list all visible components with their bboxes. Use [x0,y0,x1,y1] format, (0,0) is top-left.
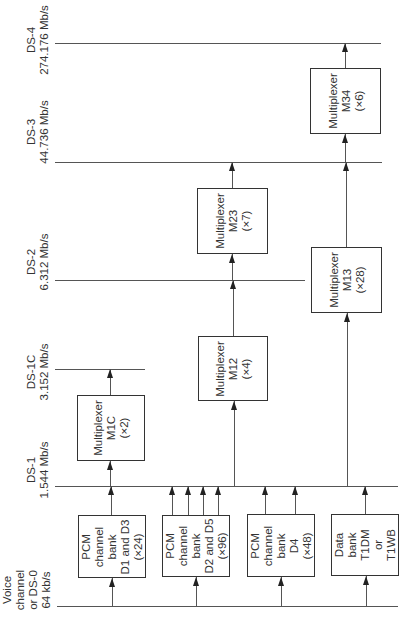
ds4-line [55,43,381,44]
arrow-up-icon [363,576,369,585]
data-bank-t1dm-t1wb: Data bank T1DM or T1WB [331,514,399,576]
arrow-up-icon [344,313,350,322]
arrow-up-icon [262,486,268,495]
ds1-line [55,486,398,487]
arrow-up-icon [342,43,348,52]
multiplexer-m23: Multiplexer M23 (×7) [197,188,268,254]
multiplexer-m1c: Multiplexer M1C (×2) [77,395,145,461]
level-label-ds1: DS-1 1.544 Mb/s [25,442,51,499]
arrow-up-icon [278,577,284,586]
multiplexer-m34: Multiplexer M34 (×6) [310,68,381,134]
arrow-up-icon [342,134,348,143]
arrow-up-icon [292,486,298,495]
level-label-ds4: DS-4 274.176 Mb/s [25,5,51,75]
arrow-up-icon [185,486,191,495]
level-label-ds3: DS-3 44.736 Mb/s [25,100,51,163]
ds3-line [55,162,382,163]
level-label-ds0: Voice channel or DS-0 64 kb/s [1,570,53,610]
ds0-line [57,606,398,607]
channel-bank-d1-d3: PCM channel bank D1 and D3 (×24) [78,515,146,578]
arrow-up-icon [169,486,175,495]
arrow-up-icon [343,162,349,171]
arrow-up-icon [193,577,199,586]
channel-bank-d2-d5: PCM channel bank D2 and D5 (×96) [162,515,230,577]
m12-input-line [234,401,235,486]
arrow-up-icon [229,162,235,171]
arrow-up-icon [107,461,113,470]
arrow-up-icon [109,578,115,587]
arrow-up-icon [231,401,237,410]
arrow-up-icon [229,254,235,263]
arrow-up-icon [362,486,368,495]
ds1c-line [55,369,145,370]
multiplexer-m12: Multiplexer M12 (×4) [198,336,268,401]
ds2-line [55,280,305,281]
arrow-up-icon [230,280,236,289]
m13-input-line [347,313,348,486]
m13-output-line [346,162,347,247]
arrow-up-icon [108,486,114,495]
arrow-up-icon [215,486,221,495]
level-label-ds1c: DS-1C 3.152 Mb/s [25,344,51,401]
level-label-ds2: DS-2 6.312 Mb/s [25,234,51,291]
channel-bank-d4: PCM channel bank D4 (×48) [247,514,315,577]
arrow-up-icon [107,369,113,378]
multiplexer-m13: Multiplexer M13 (×28) [311,247,382,313]
arrow-up-icon [200,486,206,495]
